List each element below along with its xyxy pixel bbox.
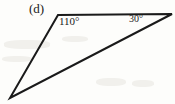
angle-label-30: 30° [129,14,143,24]
triangle-shape [0,0,175,104]
part-label: (d) [29,2,44,15]
angle-label-110: 110° [59,16,80,27]
geometry-figure: (d) 110° 30° [0,0,175,104]
triangle-outline [10,14,172,98]
